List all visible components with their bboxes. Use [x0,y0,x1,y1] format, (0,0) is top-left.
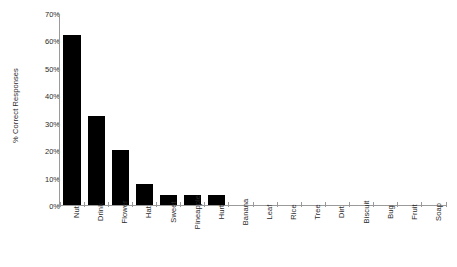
x-tick-mark [180,202,181,207]
x-tick-mark [373,202,374,207]
x-tick-mark [108,202,109,207]
x-tick-label: Nut [72,206,81,218]
x-label-cell: Hat [132,210,156,267]
bar-cell [422,14,446,206]
x-tick-label: Banana [241,199,250,225]
x-tick-mark [60,202,61,207]
bar-cell [253,14,277,206]
x-tick-mark [132,202,133,207]
bar-cell [205,14,229,206]
x-label-cell: Sweet [157,210,181,267]
x-tick-label: Drink [96,203,105,221]
x-tick-label: Bug [386,205,395,219]
x-label-cell: Soap [422,210,446,267]
x-tick-label: Pineapple [193,195,202,229]
x-label-cell: Pineapple [181,210,205,267]
x-tick-mark [301,202,302,207]
bar-series [60,14,446,206]
x-tick-label: Tree [313,204,322,220]
bar-cell [350,14,374,206]
bar-cell [84,14,108,206]
x-tick-label: Sweet [169,201,178,222]
x-label-cell: Nut [60,210,84,267]
x-tick-mark [204,202,205,207]
x-tick-label: Hat [144,206,153,218]
x-tick-mark [84,202,85,207]
y-axis-ticks: 0%10%20%30%40%50%60%70% [0,0,60,267]
bar [112,150,129,206]
x-tick-mark [277,202,278,207]
bar-cell [157,14,181,206]
x-tick-mark [156,202,157,207]
x-label-cell: Hurt [205,210,229,267]
plot-area [60,14,446,206]
x-tick-mark [325,202,326,207]
bar-cell [301,14,325,206]
x-label-cell: Banana [229,210,253,267]
bar-cell [325,14,349,206]
x-tick-mark [228,202,229,207]
bar-chart: % Correct Responses 0%10%20%30%40%50%60%… [0,0,457,267]
x-tick-label: Hurt [217,205,226,220]
x-tick-label: Flower [120,200,129,223]
x-label-cell: Tree [301,210,325,267]
x-label-cell: Biscuit [350,210,374,267]
x-tick-label: Rice [289,204,298,219]
x-axis-labels: NutDrinkFlowerHatSweetPineappleHurtBanan… [60,210,446,267]
x-label-cell: Dirt [325,210,349,267]
bar-cell [60,14,84,206]
x-tick-mark [421,202,422,207]
bar-cell [108,14,132,206]
x-tick-mark [253,202,254,207]
bar-cell [229,14,253,206]
x-tick-label: Soap [434,203,443,221]
x-tick-label: Biscuit [362,201,371,224]
x-tick-label: Dirt [337,206,346,218]
bar-cell [181,14,205,206]
x-label-cell: Flower [108,210,132,267]
x-label-cell: Leaf [253,210,277,267]
x-tick-mark [349,202,350,207]
bar [88,116,105,207]
bar-cell [132,14,156,206]
x-tick-label: Fruit [410,204,419,220]
x-label-cell: Fruit [398,210,422,267]
bar [63,35,80,206]
x-label-cell: Rice [277,210,301,267]
bar-cell [277,14,301,206]
x-label-cell: Bug [374,210,398,267]
bar-cell [398,14,422,206]
x-tick-label: Leaf [265,205,274,220]
x-tick-mark [446,202,447,207]
bar-cell [374,14,398,206]
x-tick-mark [397,202,398,207]
x-label-cell: Drink [84,210,108,267]
